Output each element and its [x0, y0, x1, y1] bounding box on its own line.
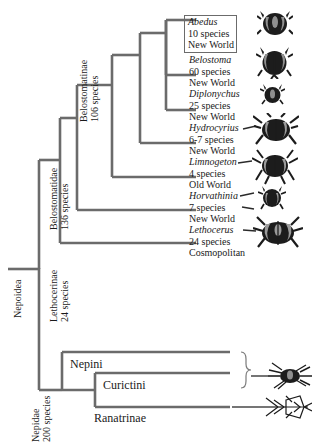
hydrocyrius-bug-icon	[253, 113, 299, 147]
taxon-horvathinia-genus: Horvathinia	[189, 190, 238, 202]
taxon-belostoma-species: 60 species	[189, 66, 235, 78]
clade-label-nepoidea-name: Nepoidea	[12, 280, 23, 318]
taxon-lethocerus-genus: Lethocerus	[189, 224, 245, 236]
taxon-hydrocyrius-species: 6-7 species	[189, 134, 239, 146]
belostoma-bug-icon	[256, 47, 293, 79]
taxon-belostoma-genus: Belostoma	[189, 54, 235, 66]
taxon-belostoma: Belostoma 60 species New World	[189, 54, 235, 89]
clade-label-nepidae-count: 200 species	[41, 396, 52, 442]
clade-label-belostomatinae-name: Belostomatinae	[78, 60, 89, 122]
taxon-abedus-distribution: New World	[188, 39, 234, 51]
nepa-water-scorpion-icon	[266, 362, 312, 390]
diplonychus-bug-icon	[260, 84, 285, 106]
taxon-diplonychus: Diplonychus 25 species New World	[189, 88, 240, 123]
lethocerus-bug-icon	[253, 216, 303, 250]
taxon-diplonychus-species: 25 species	[189, 100, 240, 112]
clade-label-nepoidea: Nepoidea	[12, 280, 23, 318]
tribe-label-curictini: Curictini	[103, 378, 146, 393]
clade-label-lethocerinae-count: 24 species	[59, 270, 70, 322]
taxon-limnogeton: Limnogeton 4 species Old World	[189, 156, 237, 191]
clade-label-belostomatinae: Belostomatinae 106 species	[78, 60, 101, 122]
clade-label-lethocerinae: Lethocerinae 24 species	[48, 270, 71, 322]
taxon-hydrocyrius-genus: Hydrocyrius	[189, 122, 239, 134]
abedus-bug-icon	[257, 9, 293, 39]
taxon-abedus-genus: Abedus	[188, 16, 234, 28]
taxon-lethocerus: Lethocerus 24 species Cosmopolitan	[189, 224, 245, 259]
taxon-lethocerus-distribution: Cosmopolitan	[189, 247, 245, 259]
taxon-diplonychus-genus: Diplonychus	[189, 88, 240, 100]
tribe-label-nepini: Nepini	[70, 357, 103, 372]
clade-label-belostomatinae-count: 106 species	[89, 60, 100, 122]
taxon-hydrocyrius: Hydrocyrius 6-7 species New World	[189, 122, 239, 157]
horvathinia-bug-icon	[258, 186, 286, 210]
nepini-curictini-brace	[241, 352, 251, 388]
taxon-limnogeton-species: 4 species	[189, 168, 237, 180]
clade-label-nepidae-name: Nepidae	[30, 396, 41, 442]
taxon-lethocerus-species: 24 species	[189, 236, 245, 248]
clade-label-belostomatidae: Belostomatidae 136 species	[48, 168, 71, 230]
taxon-horvathinia-species: 7 species	[189, 202, 238, 214]
clade-label-lethocerinae-name: Lethocerinae	[48, 270, 59, 322]
limnogeton-bug-icon	[252, 149, 298, 185]
taxon-abedus-species: 10 species	[188, 28, 234, 40]
taxon-limnogeton-genus: Limnogeton	[189, 156, 237, 168]
taxon-abedus: Abedus 10 species New World	[184, 15, 237, 53]
taxon-horvathinia: Horvathinia 7 species New World	[189, 190, 238, 225]
tribe-label-ranatrinae: Ranatrinae	[94, 411, 146, 426]
clade-label-belostomatidae-count: 136 species	[59, 168, 70, 230]
clade-label-belostomatidae-name: Belostomatidae	[48, 168, 59, 230]
clade-label-nepidae: Nepidae 200 species	[30, 396, 53, 442]
ranatra-water-scorpion-icon	[256, 394, 312, 420]
